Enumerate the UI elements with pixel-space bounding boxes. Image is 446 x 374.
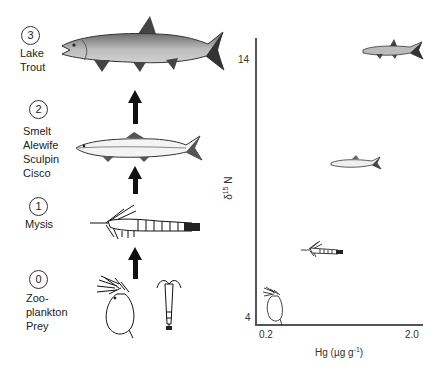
trophic-level-number: 0 — [35, 273, 41, 285]
zooplankton-icon — [95, 274, 215, 344]
trophic-level-3-label: Lake Trout — [20, 46, 45, 74]
mysis-shrimp-icon — [88, 203, 204, 243]
forage-fish-point-icon[interactable] — [330, 155, 382, 171]
label-line: Sculpin — [23, 152, 59, 166]
y-tick-14: 14 — [238, 54, 249, 65]
trophic-level-number: 3 — [27, 29, 33, 41]
y-axis-title: δ15 N — [222, 176, 234, 199]
label-line: Alewife — [23, 138, 59, 152]
label-line: Cisco — [23, 166, 59, 180]
label-line: Smelt — [23, 124, 59, 138]
trophic-level-3-badge: 3 — [21, 26, 40, 45]
x-tick-0-2: 0.2 — [259, 329, 273, 340]
trophic-level-1-label: Mysis — [25, 217, 53, 231]
x-axis-title-close: ) — [360, 347, 363, 358]
lake-trout-icon — [58, 12, 228, 80]
label-line: Trout — [20, 60, 45, 74]
x-tick-2-0: 2.0 — [405, 329, 419, 340]
label-line: Mysis — [25, 217, 53, 231]
y-tick-4: 4 — [245, 312, 251, 323]
x-axis-title: Hg (µg g-1) — [315, 346, 363, 358]
y-axis-title-superscript: 15 — [222, 186, 229, 194]
trophic-level-2-label: Smelt Alewife Sculpin Cisco — [23, 124, 59, 180]
label-line: plankton — [26, 305, 68, 319]
label-line: Zoo- — [26, 291, 68, 305]
trophic-level-0-label: Zoo- plankton Prey — [26, 291, 68, 333]
y-axis-line — [255, 38, 257, 325]
label-line: Prey — [26, 319, 68, 333]
y-axis-title-delta: δ — [223, 194, 234, 200]
lake-trout-point-icon[interactable] — [362, 38, 424, 62]
zooplankton-point-icon[interactable] — [262, 286, 286, 326]
mysis-point-icon[interactable] — [300, 240, 344, 258]
label-line: Lake — [20, 46, 45, 60]
trophic-level-2-badge: 2 — [29, 100, 48, 119]
trophic-level-number: 2 — [35, 103, 41, 115]
trophic-level-1-badge: 1 — [29, 197, 48, 216]
trophic-level-number: 1 — [35, 200, 41, 212]
y-axis-title-n: N — [223, 176, 234, 183]
x-axis-title-text: Hg (µg g — [315, 347, 354, 358]
forage-fish-icon — [74, 130, 204, 166]
trophic-level-0-badge: 0 — [29, 270, 48, 289]
